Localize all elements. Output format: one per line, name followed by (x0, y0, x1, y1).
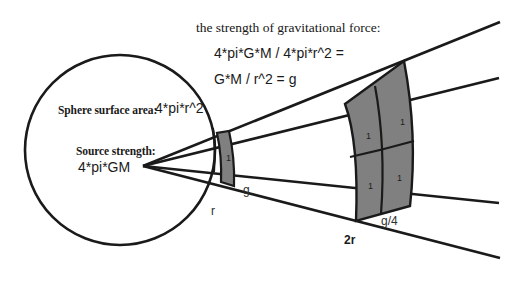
sphere-area-label: Sphere surface area: (58, 105, 157, 117)
far-patch-fill (345, 61, 413, 221)
source-strength-label: Source strength: (76, 146, 155, 158)
equation-line-1: 4*pi*G*M / 4*pi*r^2 = (214, 46, 344, 60)
cone-ray-bottom-inner (143, 166, 499, 203)
far-patch-cell-label: 1 (368, 182, 373, 191)
source-strength-value: 4*pi*GM (78, 160, 130, 174)
far-patch-cell-label: 1 (397, 174, 402, 183)
equation-line-2: G*M / r^2 = g (214, 72, 296, 86)
gravitational-force-diagram: the strength of gravitational force: 4*p… (0, 0, 524, 281)
diagram-canvas (0, 0, 524, 281)
near-patch-cell-label: 1 (226, 154, 231, 163)
radius-label-outer: 2r (344, 234, 355, 246)
cone-ray-bottom-outer (143, 166, 500, 258)
diagram-title: the strength of gravitational force: (196, 21, 380, 35)
field-label-inner: g (243, 184, 250, 196)
far-patch-cell-label: 1 (400, 118, 405, 127)
far-patch-cell-label: 1 (366, 132, 371, 141)
cone-ray-top-inner (143, 78, 499, 166)
field-label-outer: g/4 (381, 215, 398, 227)
sphere-area-value: 4*pi*r^2 (155, 101, 204, 115)
radius-label-inner: r (211, 205, 215, 217)
